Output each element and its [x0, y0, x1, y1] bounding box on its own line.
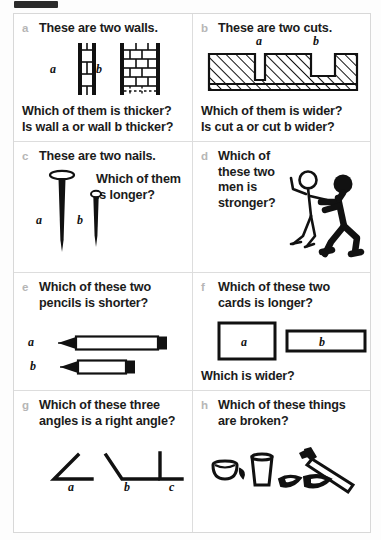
panel-f-label-a: a	[241, 335, 247, 350]
panel-c-label-a: a	[36, 213, 42, 228]
two-cuts-figure	[207, 46, 359, 94]
panel-g-letter: g	[22, 398, 30, 413]
two-men-figure	[281, 154, 367, 262]
panel-h: h Which of these things are broken?	[192, 390, 370, 532]
panel-e-prompt: Which of these two pencils is shorter?	[39, 280, 151, 311]
panel-f: f Which of these two cards is longer? a …	[192, 272, 370, 390]
panel-a-header: a These are two walls.	[22, 21, 184, 37]
panel-c-header: c These are two nails.	[22, 149, 184, 165]
panel-h-prompt: Which of these things are broken?	[218, 398, 346, 429]
panel-b-footer: Which of them is wider? Is cut a or cut …	[201, 104, 364, 135]
two-pencils-figure	[38, 332, 186, 380]
two-walls-figure	[58, 41, 162, 97]
panel-d: d Which of these two men is stronger?	[192, 141, 370, 272]
exercise-grid: a These are two walls.	[13, 13, 371, 533]
panel-g: g Which of these three angles is a right…	[14, 390, 192, 532]
panel-b-letter: b	[201, 21, 209, 36]
panel-a: a These are two walls.	[14, 14, 192, 141]
panel-f-letter: f	[201, 280, 209, 295]
panel-f-prompt: Which of these two cards is longer?	[218, 280, 330, 311]
panel-e-label-a: a	[28, 335, 34, 350]
two-cards-figure	[217, 321, 367, 363]
panel-f-label-b: b	[319, 335, 325, 350]
page-top-marker	[14, 1, 58, 8]
panel-e: e Which of these two pencils is shorter?	[14, 272, 192, 390]
panel-e-header: e Which of these two pencils is shorter?	[22, 280, 184, 311]
panel-c-letter: c	[22, 149, 30, 164]
panel-h-letter: h	[201, 398, 209, 413]
panel-f-footer: Which is wider?	[201, 369, 364, 385]
panel-g-label-c: c	[169, 480, 174, 495]
panel-c-label-b: b	[77, 213, 83, 228]
panel-h-header: h Which of these things are broken?	[201, 398, 362, 429]
panel-d-letter: d	[201, 149, 209, 164]
panel-f-header: f Which of these two cards is longer?	[201, 280, 362, 311]
panel-a-label-b: b	[96, 62, 102, 77]
broken-things-figure	[207, 445, 357, 501]
panel-g-label-a: a	[68, 480, 74, 495]
panel-g-header: g Which of these three angles is a right…	[22, 398, 184, 429]
panel-a-footer: Which of them is thicker? Is wall a or w…	[22, 104, 186, 135]
panel-e-letter: e	[22, 280, 30, 295]
panel-b-label-b: b	[313, 34, 319, 49]
panel-g-prompt: Which of these three angles is a right a…	[39, 398, 175, 429]
panel-e-label-b: b	[30, 359, 36, 374]
panel-b-label-a: a	[256, 34, 262, 49]
panel-d-prompt: Which of these two men is stronger?	[218, 149, 275, 211]
panel-b: b These are two cuts. a b Which of them …	[192, 14, 370, 141]
worksheet-page: a These are two walls.	[0, 0, 381, 540]
two-nails-figure	[44, 168, 114, 256]
panel-b-header: b These are two cuts.	[201, 21, 362, 37]
panel-a-prompt: These are two walls.	[39, 21, 158, 37]
panel-c: c These are two nails. Which of them is …	[14, 141, 192, 272]
panel-g-label-b: b	[124, 480, 130, 495]
panel-c-prompt: These are two nails.	[39, 149, 156, 165]
panel-a-label-a: a	[50, 62, 56, 77]
panel-a-letter: a	[22, 21, 30, 36]
